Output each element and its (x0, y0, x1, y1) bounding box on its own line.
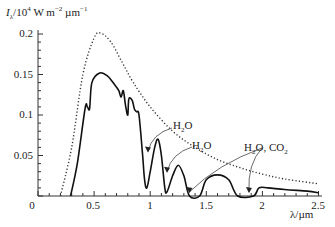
y-label-unit2: µm (62, 6, 80, 18)
x-tick-0: 0 (17, 199, 47, 211)
axes (38, 30, 322, 196)
ann-text: H (173, 119, 181, 131)
x-axis-label: λ/µm (290, 208, 313, 220)
x-tick-2: 2 (247, 199, 277, 211)
ann-text: O (184, 119, 192, 131)
y-tick-0.2: 0.2 (3, 27, 33, 39)
ann-sub: 2 (284, 148, 288, 156)
series-dotted-curve (60, 33, 318, 196)
x-tick-1.5: 1.5 (191, 199, 221, 211)
y-label-rest: /10 (13, 6, 27, 18)
x-tick-0.5: 0.5 (78, 199, 108, 211)
annotation-h2o-2: H2O (192, 139, 211, 154)
ann-text: H (192, 139, 200, 151)
y-tick-0.1: 0.1 (3, 108, 33, 120)
chart-canvas (0, 0, 335, 227)
ann-text: O, CO (255, 141, 284, 153)
y-axis-label: Iλ/104 W m−2 µm−1 (6, 5, 87, 21)
y-tick-0.05: 0.05 (3, 149, 33, 161)
ann-text: H (244, 141, 252, 153)
annotation-h2o-co2: H2O, CO2 (244, 141, 288, 156)
ann-text: O (203, 139, 211, 151)
x-tick-1: 1 (135, 199, 165, 211)
y-tick-0.15: 0.15 (3, 68, 33, 80)
series-solid-curve (71, 73, 319, 199)
y-label-unit1: W m (31, 6, 55, 18)
annotation-h2o-1: H2O (173, 119, 192, 134)
y-label-exp3: −1 (80, 5, 87, 13)
